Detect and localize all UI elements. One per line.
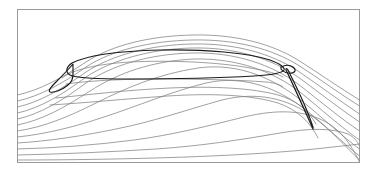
streamline-figure [0, 0, 377, 172]
plot-frame [18, 10, 360, 163]
plot-canvas [0, 0, 377, 172]
